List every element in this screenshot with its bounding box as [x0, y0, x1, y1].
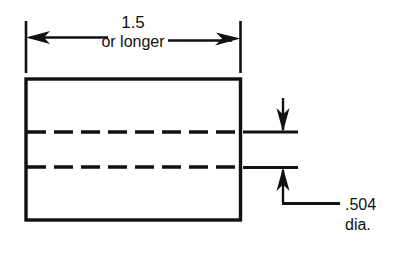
width-dimension-value: 1.5 [121, 13, 145, 32]
part-outline-group [26, 79, 241, 220]
diameter-callout-value: .504 [345, 196, 376, 213]
width-dimension-group: 1.5 or longer [26, 13, 241, 73]
diameter-dimension-group: .504 dia. [243, 98, 376, 233]
dimension-arrow-right-icon [215, 33, 241, 46]
engineering-drawing-svg: 1.5 or longer [0, 0, 400, 258]
width-dimension-qualifier: or longer [101, 33, 165, 50]
diameter-callout-unit-label: dia. [345, 216, 371, 233]
part-outline-rectangle [26, 79, 241, 220]
technical-drawing-canvas: 1.5 or longer [0, 0, 400, 258]
